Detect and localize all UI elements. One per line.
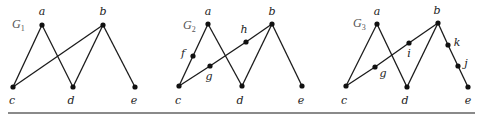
vertex-label-e: e xyxy=(465,94,472,107)
graphs-layer: abcdeG1abcdefghG2abcdegikjG3 xyxy=(9,4,472,107)
vertex-label-i: i xyxy=(407,47,411,60)
vertex-i xyxy=(406,40,411,45)
graph-title: G3 xyxy=(353,16,366,32)
vertex-label-k: k xyxy=(454,36,461,49)
edge-a-c xyxy=(346,24,377,86)
vertex-label-j: j xyxy=(461,57,468,70)
vertex-a xyxy=(205,21,210,26)
vertex-label-b: b xyxy=(99,5,106,18)
vertex-label-d: d xyxy=(236,94,243,107)
vertex-k xyxy=(445,42,450,47)
vertex-label-a: a xyxy=(205,5,212,18)
edge-b-d xyxy=(73,25,103,87)
graph-title: G2 xyxy=(183,18,196,34)
graph-title: G1 xyxy=(12,17,25,33)
edge-b-e xyxy=(103,25,135,87)
vertex-e xyxy=(465,84,470,89)
vertex-c xyxy=(10,84,15,89)
vertex-label-a: a xyxy=(374,5,381,18)
vertex-h xyxy=(243,39,248,44)
vertex-label-a: a xyxy=(39,5,46,18)
vertex-label-d: d xyxy=(67,94,74,107)
vertex-d xyxy=(404,84,409,89)
vertex-label-g: g xyxy=(205,70,212,83)
vertex-a xyxy=(39,22,44,27)
vertex-b xyxy=(435,20,440,25)
edge-b-d xyxy=(407,23,438,87)
graph-g3: abcdegikjG3 xyxy=(341,4,472,107)
vertex-label-c: c xyxy=(9,94,15,107)
vertex-d xyxy=(70,84,75,89)
graph-g2: abcdefghG2 xyxy=(175,5,305,107)
edge-b-k xyxy=(438,23,448,45)
vertex-label-f: f xyxy=(180,47,187,60)
vertex-j xyxy=(455,63,460,68)
vertex-a xyxy=(374,21,379,26)
vertex-g xyxy=(372,64,377,69)
vertex-label-d: d xyxy=(401,94,408,107)
graph-figure: abcdeG1abcdefghG2abcdegikjG3 xyxy=(0,0,478,116)
vertex-b xyxy=(269,21,274,26)
edge-b-c xyxy=(13,25,103,87)
vertex-label-b: b xyxy=(433,4,440,17)
vertex-e xyxy=(132,84,137,89)
vertex-c xyxy=(176,83,181,88)
vertex-c xyxy=(343,83,348,88)
vertex-label-c: c xyxy=(341,94,347,107)
vertex-g xyxy=(207,63,212,68)
vertex-label-h: h xyxy=(240,23,247,36)
vertex-label-c: c xyxy=(175,94,181,107)
vertex-f xyxy=(190,53,195,58)
vertex-label-e: e xyxy=(131,94,138,107)
vertex-label-b: b xyxy=(268,5,275,18)
graph-g1: abcdeG1 xyxy=(9,5,138,107)
vertex-label-e: e xyxy=(298,94,305,107)
edge-g-h xyxy=(210,42,246,66)
edge-a-d xyxy=(208,24,242,86)
vertex-b xyxy=(100,22,105,27)
vertex-d xyxy=(239,83,244,88)
edge-b-e xyxy=(272,24,302,86)
vertex-e xyxy=(299,83,304,88)
edge-g-i xyxy=(375,43,409,67)
vertex-label-g: g xyxy=(379,67,386,80)
